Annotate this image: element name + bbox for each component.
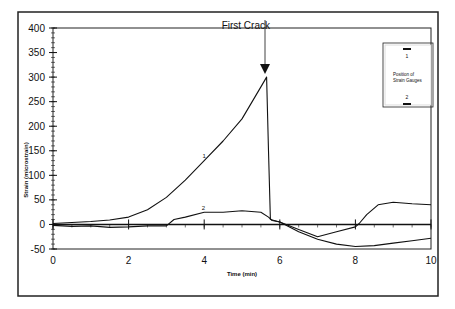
first-crack-annotation: First Crack	[222, 20, 271, 31]
gauge-1-label: 1	[406, 53, 409, 59]
plot-area	[53, 28, 431, 249]
x-tick-label: 2	[126, 255, 132, 266]
y-tick-label: 0	[39, 219, 45, 230]
series-2-label: 2	[202, 205, 206, 211]
y-tick-label: 350	[28, 47, 45, 58]
y-axis-label: Strain (microstrain)	[23, 142, 29, 197]
y-tick-label: 300	[28, 72, 45, 83]
outer-frame	[18, 12, 438, 296]
data-series: 12	[53, 77, 431, 246]
y-tick-label: 250	[28, 96, 45, 107]
x-tick-label: 6	[277, 255, 283, 266]
y-tick-label: 400	[28, 23, 45, 34]
x-axis-label: Time (min)	[227, 271, 257, 277]
y-tick-label: 100	[28, 170, 45, 181]
arrow-down-icon	[260, 64, 270, 74]
inset-title-line2: Strain Gauges	[393, 78, 423, 83]
y-tick-label: 50	[34, 194, 46, 205]
x-axis: 0246810	[50, 219, 437, 266]
y-tick-label: -50	[31, 244, 46, 255]
gauge-2-label: 2	[406, 94, 409, 100]
y-tick-label: 200	[28, 121, 45, 132]
series-line-1	[53, 77, 431, 246]
strain-gauge-inset: 1 Position of Strain Gauges 2	[383, 43, 433, 107]
x-tick-label: 4	[201, 255, 207, 266]
y-tick-label: 150	[28, 145, 45, 156]
x-tick-label: 8	[353, 255, 359, 266]
chart: 400350300250200150100500-50 0246810 12 S…	[0, 0, 455, 309]
inset-title: Position of	[393, 72, 415, 77]
x-tick-label: 10	[425, 255, 437, 266]
x-tick-label: 0	[50, 255, 56, 266]
